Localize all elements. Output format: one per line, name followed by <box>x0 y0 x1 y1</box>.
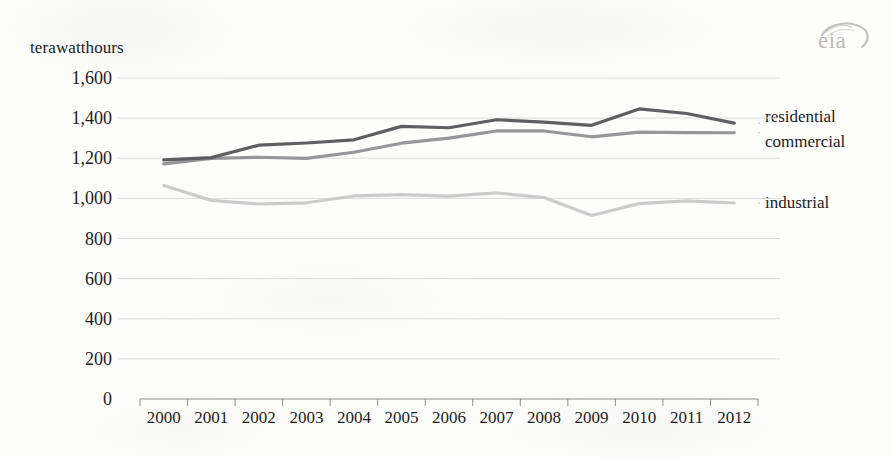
series-line-residential <box>164 109 734 160</box>
eia-wordmark: eia <box>818 29 846 52</box>
series-line-industrial <box>164 186 734 216</box>
eia-logo: eia <box>812 18 874 58</box>
plot-area <box>0 0 893 458</box>
electricity-sales-line-chart: terawatthours 02004006008001,0001,2001,4… <box>0 0 893 458</box>
